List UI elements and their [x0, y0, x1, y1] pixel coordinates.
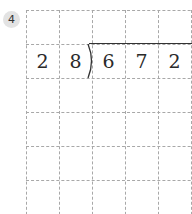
dividend-digit: 2	[158, 44, 191, 78]
dividend-digit: 7	[125, 44, 158, 78]
divisor-digit: 2	[26, 44, 59, 78]
problem-number-badge: 4	[3, 11, 20, 28]
grid-hline	[26, 112, 192, 113]
dividend-digit: 6	[92, 44, 125, 78]
grid-hline	[26, 146, 192, 147]
work-grid	[26, 10, 192, 214]
grid-hline	[26, 78, 192, 79]
grid-hline	[26, 10, 192, 11]
grid-hline	[26, 180, 192, 181]
division-bracket-icon	[86, 44, 94, 78]
division-overline	[89, 43, 192, 44]
